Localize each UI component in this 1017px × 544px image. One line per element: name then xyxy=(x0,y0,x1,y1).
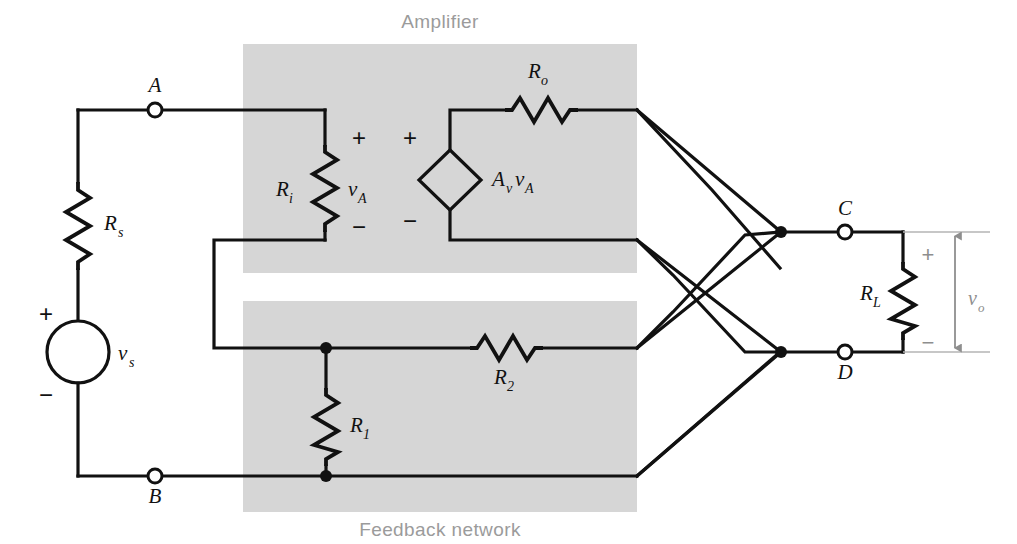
wire-feedback-upper-diagonal xyxy=(637,232,781,348)
svg-text:A: A xyxy=(524,181,534,196)
ri-plus-sign: + xyxy=(352,124,366,151)
svg-text:v: v xyxy=(348,177,358,201)
vs-minus-sign: − xyxy=(39,381,53,408)
label-rl: R L xyxy=(859,281,881,310)
svg-text:o: o xyxy=(541,73,548,88)
svg-text:v: v xyxy=(515,167,525,191)
vo-minus-sign: − xyxy=(922,330,935,355)
terminal-B-label: B xyxy=(149,484,162,508)
svg-text:R: R xyxy=(103,211,117,235)
svg-text:2: 2 xyxy=(507,379,514,394)
feedback-block-label: Feedback network xyxy=(359,519,521,540)
svg-text:1: 1 xyxy=(363,427,370,442)
terminal-B-marker[interactable] xyxy=(148,469,162,483)
svg-text:s: s xyxy=(118,225,124,240)
svg-text:R: R xyxy=(349,413,363,437)
svg-text:v: v xyxy=(968,287,977,309)
svg-text:R: R xyxy=(493,365,507,389)
svg-text:v: v xyxy=(118,341,128,365)
vs-plus-sign: + xyxy=(39,300,53,327)
junction-dot-feedback-top xyxy=(320,342,332,354)
terminal-C-label: C xyxy=(838,196,853,220)
circuit-schematic-svg: Amplifier Feedback network + − R s v s R… xyxy=(0,0,1017,544)
svg-text:L: L xyxy=(872,295,881,310)
terminal-D-marker[interactable] xyxy=(838,345,852,359)
label-vs: v s xyxy=(118,341,135,370)
label-rs: R s xyxy=(103,211,124,240)
wire-feedback-lower-diagonal xyxy=(637,352,781,476)
label-vo: v o xyxy=(968,287,985,315)
amplifier-block-label: Amplifier xyxy=(401,11,479,32)
terminal-C-marker[interactable] xyxy=(838,225,852,239)
terminal-A-marker[interactable] xyxy=(148,103,162,117)
svg-text:s: s xyxy=(129,355,135,370)
wire-amp-return-diagonal xyxy=(637,240,781,352)
dep-plus-sign: + xyxy=(403,124,417,151)
svg-text:R: R xyxy=(527,59,541,83)
svg-text:i: i xyxy=(289,191,293,206)
svg-text:o: o xyxy=(978,300,985,315)
feedback-block-shade xyxy=(243,301,637,512)
resistor-rl xyxy=(891,262,915,340)
wire-amp-out-to-node-D xyxy=(637,110,780,268)
terminal-D-label: D xyxy=(836,360,852,384)
circuit-diagram-canvas: Amplifier Feedback network + − R s v s R… xyxy=(0,0,1017,544)
svg-text:R: R xyxy=(275,177,289,201)
svg-text:A: A xyxy=(357,191,367,206)
svg-text:R: R xyxy=(859,281,873,305)
junction-dot-feedback-bottom xyxy=(320,470,332,482)
dep-minus-sign: − xyxy=(403,207,417,234)
voltage-source-vs-symbol xyxy=(47,321,109,383)
wire-amp-out-top-diagonal xyxy=(637,110,781,232)
svg-text:A: A xyxy=(490,167,505,191)
svg-text:v: v xyxy=(506,181,513,196)
terminal-A-label: A xyxy=(147,73,162,97)
ri-minus-sign: − xyxy=(352,213,366,240)
resistor-rs xyxy=(66,182,90,270)
vo-plus-sign: + xyxy=(922,242,935,267)
